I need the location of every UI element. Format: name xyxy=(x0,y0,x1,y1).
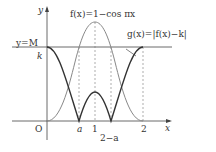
function-graph-diagram: y x O f(x)=1−cos πx g(x)=|f(x)−k| y=M k … xyxy=(0,0,216,152)
axes xyxy=(12,6,172,140)
k-label: k xyxy=(37,51,42,61)
f-label: f(x)=1−cos πx xyxy=(70,9,135,19)
tick-2-minus-a: 2−a xyxy=(100,133,119,143)
x-axis-label: x xyxy=(165,123,170,133)
tick-2: 2 xyxy=(141,124,147,134)
tick-1: 1 xyxy=(92,124,98,134)
g-label-leader xyxy=(126,49,136,56)
y-axis-label: y xyxy=(37,5,44,15)
origin-label: O xyxy=(35,124,42,134)
g-label: g(x)=|f(x)−k| xyxy=(127,29,187,40)
tick-a: a xyxy=(77,124,82,134)
y-equals-M-label: y=M xyxy=(15,38,38,48)
y-axis-arrow-icon xyxy=(45,6,49,12)
